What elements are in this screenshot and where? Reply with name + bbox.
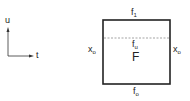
label-dashed-fu: fu (132, 40, 138, 50)
label-sub: o (178, 49, 181, 55)
label-sub: 1 (134, 12, 137, 18)
axis-label-u: u (5, 16, 10, 25)
label-sub: o (136, 91, 139, 97)
axes-icon (7, 27, 35, 58)
label-top-f1: f1 (131, 8, 137, 18)
label-sub: o (93, 49, 96, 55)
label-center-F: F (132, 51, 139, 63)
label-bottom-f0: fo (133, 87, 139, 97)
label-left-x0: xo (88, 45, 96, 55)
label-right-x0: xo (173, 45, 181, 55)
axis-label-t: t (36, 51, 39, 60)
